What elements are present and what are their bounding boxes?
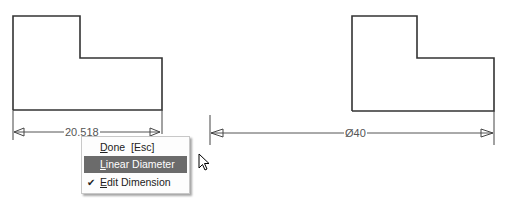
menu-label: one: [108, 141, 126, 153]
mnemonic: E: [100, 176, 107, 188]
menu-item-edit-dimension[interactable]: ✔ Edit Dimension: [84, 174, 187, 191]
context-menu: Done [Esc] Linear Diameter ✔ Edit Dimens…: [81, 136, 190, 194]
checkmark-icon: ✔: [87, 174, 95, 191]
shortcut-label: [Esc]: [131, 141, 154, 153]
menu-item-linear-diameter[interactable]: Linear Diameter: [84, 156, 187, 173]
right-profile-sketch[interactable]: [352, 16, 494, 111]
mnemonic: D: [100, 141, 108, 153]
menu-label: inear Diameter: [106, 158, 175, 170]
mouse-pointer-icon: [198, 153, 212, 173]
menu-item-done[interactable]: Done [Esc]: [84, 139, 187, 156]
left-profile-sketch[interactable]: [13, 16, 162, 110]
right-dimension-value[interactable]: Ø40: [344, 127, 367, 139]
menu-label: dit Dimension: [107, 176, 171, 188]
drawing-canvas[interactable]: [0, 0, 512, 199]
